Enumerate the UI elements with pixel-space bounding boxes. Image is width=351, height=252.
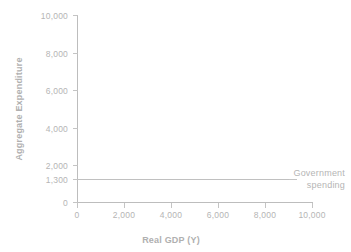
y-tick-label-6000: 6,000	[46, 86, 68, 96]
y-axis-title: Aggregate Expenditure	[14, 57, 24, 160]
y-tick-label-1300: 1,300	[46, 175, 68, 185]
x-tick-label-6000: 6,000	[207, 210, 229, 220]
annotation-line-1: Government	[293, 168, 345, 178]
y-tick-label-4000: 4,000	[46, 124, 68, 134]
aggregate-expenditure-chart: 10,000 8,000 6,000 4,000 2,000 1,300 0 0…	[0, 0, 351, 252]
annotation-line-2: spending	[307, 180, 345, 190]
x-tick-label-10000: 10,000	[298, 210, 325, 220]
y-tick-label-8000: 8,000	[46, 49, 68, 59]
y-tick-label-2000: 2,000	[46, 161, 68, 171]
x-tick-label-0: 0	[75, 210, 80, 220]
x-axis-title: Real GDP (Y)	[142, 235, 200, 245]
chart-container: 10,000 8,000 6,000 4,000 2,000 1,300 0 0…	[0, 0, 351, 252]
y-tick-label-10000: 10,000	[41, 11, 68, 21]
y-tick-label-0: 0	[63, 198, 68, 208]
x-tick-label-4000: 4,000	[160, 210, 182, 220]
x-tick-label-8000: 8,000	[254, 210, 276, 220]
x-tick-label-2000: 2,000	[113, 210, 135, 220]
